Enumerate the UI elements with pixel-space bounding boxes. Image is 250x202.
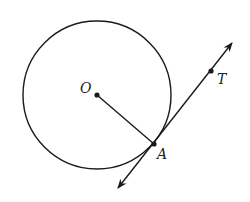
point-o	[94, 92, 99, 97]
geometry-diagram: O A T	[0, 0, 250, 202]
label-a: A	[155, 146, 167, 162]
radius-oa	[97, 95, 154, 144]
label-t: T	[217, 71, 228, 87]
point-a	[151, 141, 156, 146]
label-o: O	[80, 80, 92, 96]
tangent-line-at	[118, 43, 232, 188]
point-t	[208, 68, 213, 73]
